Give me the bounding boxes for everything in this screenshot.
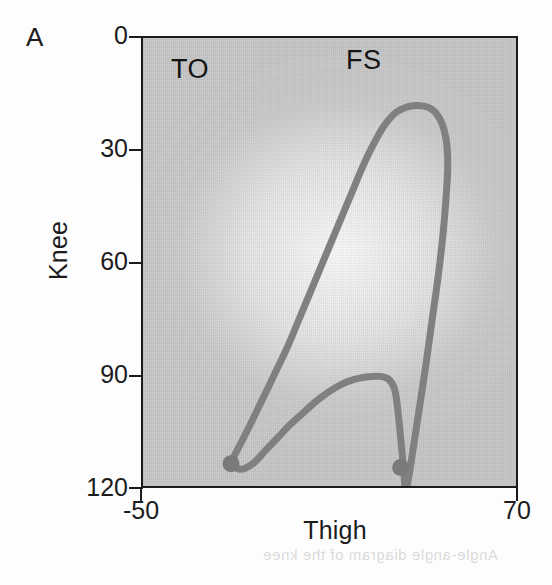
y-tick-90: 90 (46, 362, 128, 388)
plot-area: TO FS (141, 36, 518, 488)
curve-group (231, 106, 448, 488)
marker-foot-strike (392, 459, 409, 476)
annotation-label-to: TO (171, 56, 209, 83)
y-tick-0: 0 (46, 23, 128, 49)
x-axis-label: Thigh (250, 516, 420, 545)
x-tick-label-minus50: -50 (96, 498, 186, 523)
y-tick-label-0: 0 (46, 23, 128, 48)
y-tick-label-120: 120 (46, 475, 128, 500)
y-tick-label-60: 60 (46, 249, 128, 274)
page-bleedthrough-text: Angle-angle diagram of the knee (168, 546, 498, 563)
annotation-label-fs: FS (346, 47, 382, 74)
figure-page: A Knee Thigh 0 30 60 90 120 -50 70 TO FS (0, 0, 552, 585)
y-tick-label-90: 90 (46, 362, 128, 387)
knee-thigh-cycle-path (231, 106, 448, 488)
y-tick-60: 60 (46, 249, 128, 275)
y-tick-30: 30 (46, 136, 128, 162)
marker-toe-off (222, 455, 239, 472)
y-tick-label-30: 30 (46, 136, 128, 161)
x-tick-label-70: 70 (472, 498, 552, 523)
panel-letter: A (26, 24, 44, 50)
x-tick-minus50: -50 (96, 498, 186, 526)
x-tick-70: 70 (472, 498, 552, 526)
angle-angle-curve-svg (143, 38, 518, 488)
